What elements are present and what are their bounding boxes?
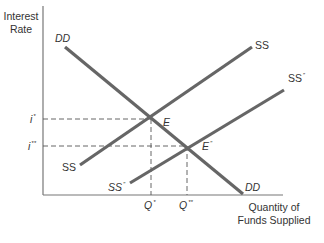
equilibrium-e-new-base: E [202,140,209,152]
x-tick-q-star-base: Q [144,199,152,211]
supply-label-bottom: SS [62,162,76,173]
y-axis-title-line1: Interest [0,10,42,23]
x-axis-title: Quantity of Funds Supplied [224,201,324,227]
x-tick-q-dstar: Q** [179,200,193,211]
demand-label-bottom: DD [245,182,260,193]
y-tick-i-dstar-mark: ** [31,140,36,146]
demand-curve-dd [65,47,243,194]
equilibrium-e-new-mark: ″ [210,140,212,146]
supply-shifted-label-bottom-base: SS [108,181,122,193]
demand-label-top: DD [55,33,70,44]
y-tick-i-star-base: i [30,113,32,125]
supply-curve-ss-shifted [130,90,284,183]
x-axis-title-line2: Funds Supplied [224,214,324,227]
equilibrium-e-label: E [163,117,170,128]
y-tick-i-star: i* [30,114,36,125]
x-tick-q-star-mark: * [153,199,155,205]
x-tick-q-dstar-mark: ** [188,199,193,205]
y-tick-i-star-mark: * [33,113,35,119]
supply-demand-diagram: Interest Rate Quantity of Funds Supplied… [0,0,324,243]
supply-curve-ss [80,47,252,165]
supply-label-top: SS [255,40,269,51]
supply-shifted-label-bottom: SS″ [108,182,125,193]
y-tick-i-dstar: i** [28,141,36,152]
y-tick-i-dstar-base: i [28,140,30,152]
equilibrium-e-new-label: E″ [202,141,212,152]
x-tick-q-star: Q* [144,200,156,211]
y-axis-title: Interest Rate [0,10,42,36]
supply-shifted-label-top-mark: ″ [303,72,305,78]
supply-shifted-label-bottom-mark: ″ [123,181,125,187]
supply-shifted-label-top: SS″ [288,73,305,84]
x-tick-q-dstar-base: Q [179,199,187,211]
y-axis-title-line2: Rate [0,23,42,36]
x-axis-title-line1: Quantity of [224,201,324,214]
supply-shifted-label-top-base: SS [288,72,302,84]
